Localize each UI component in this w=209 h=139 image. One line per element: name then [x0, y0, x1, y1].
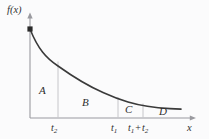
x-tick-label-t1: t1 [111, 123, 117, 133]
tick-subscript-2: 2 [145, 127, 149, 135]
region-label-c: C [125, 104, 132, 115]
x-axis-arrowhead [190, 115, 196, 120]
y-axis-label: f(x) [7, 5, 22, 16]
x-axis-label: x [187, 123, 192, 134]
plot-canvas [0, 0, 209, 139]
region-label-a: A [39, 85, 46, 96]
function-plot-figure: f(x) x A B C D t2 t1 t1+t2 [0, 0, 209, 139]
tick-subscript: 2 [54, 127, 58, 135]
tick-operator: + [134, 122, 142, 133]
tick-subscript: 1 [131, 127, 135, 135]
region-label-b: B [82, 97, 89, 108]
function-curve [30, 29, 181, 109]
region-label-d: D [159, 106, 167, 117]
y-axis-arrowhead [27, 13, 32, 19]
tick-subscript: 1 [114, 127, 118, 135]
x-tick-label-t2: t2 [51, 123, 57, 133]
x-tick-label-t1-plus-t2: t1+t2 [128, 123, 148, 133]
curve-start-marker [27, 26, 32, 31]
